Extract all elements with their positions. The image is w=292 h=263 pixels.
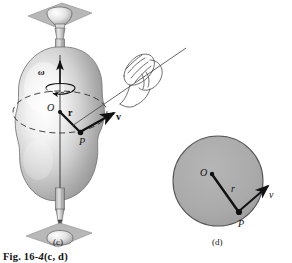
radius-label-d: r: [231, 184, 235, 194]
omega-label: ω: [38, 68, 45, 77]
center-label-d: O: [200, 168, 207, 178]
caption-prefix: Fig. 16: [3, 251, 35, 262]
velocity-label-d: v: [269, 190, 273, 200]
hand-pulling-string: [120, 54, 162, 107]
caption-suffix: (c, d): [44, 251, 68, 262]
figure-caption: Fig. 16-4(c, d): [3, 252, 68, 263]
center-label-c: O: [47, 103, 54, 113]
velocity-label-c: v: [116, 112, 121, 122]
point-label-c: P: [79, 137, 85, 147]
panel-d-tag: (d): [212, 238, 223, 247]
point-label-d: P: [238, 219, 244, 229]
panel-c-tag: (c): [53, 238, 63, 247]
radius-label-c: r: [68, 108, 72, 118]
lower-shaft: [56, 188, 65, 226]
top-bearing: [47, 7, 72, 29]
